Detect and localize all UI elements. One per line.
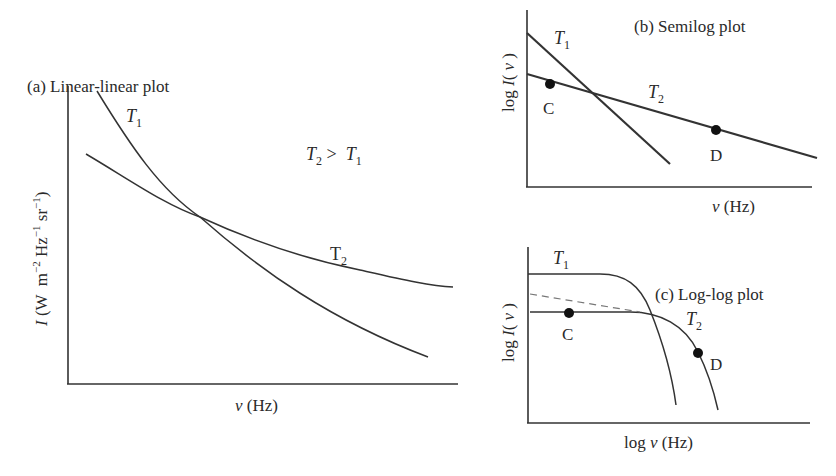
panel-c-y-label: log I( ν ) [499, 303, 518, 362]
panel-c-point-c [564, 308, 574, 318]
panel-a-t1-label: T1 [126, 106, 142, 130]
panel-a-curve-t2 [86, 154, 453, 287]
panel-c-dashed-line [530, 294, 640, 312]
panel-a-x-label: ν (Hz) [235, 396, 278, 415]
panel-b-title: (b) Semilog plot [634, 17, 746, 36]
panel-c-curve-t1 [528, 274, 676, 405]
panel-c-point-d-label: D [710, 355, 722, 374]
panel-b-semilog: (b) Semilog plot C D T1 T2 log I( ν ) ν … [499, 10, 817, 216]
panel-b-point-d [711, 125, 721, 135]
panel-c-log-log: (c) Log-log plot C D T1 T2 log I( ν ) lo… [499, 247, 810, 452]
panel-c-t2-label: T2 [686, 309, 702, 333]
panel-b-t1-label: T1 [554, 28, 570, 52]
panel-b-y-label: log I( ν ) [499, 53, 518, 112]
panel-a-curve-t1 [97, 91, 428, 357]
panel-b-point-c-label: C [543, 99, 554, 118]
panel-a-linear-linear: (a) Linear-linear plot T1 T2 T2 > T1 I (… [27, 77, 458, 415]
panel-c-point-d [693, 348, 703, 358]
panel-b-point-c [545, 79, 555, 89]
panel-a-y-label: I (W m−2 Hz−1 sr−1) [30, 192, 51, 327]
panel-c-title: (c) Log-log plot [655, 285, 764, 304]
panel-b-x-label: ν (Hz) [712, 197, 755, 216]
panel-b-t2-label: T2 [648, 82, 664, 106]
panel-b-line-t2 [527, 74, 817, 158]
figure-canvas: (a) Linear-linear plot T1 T2 T2 > T1 I (… [0, 0, 836, 476]
panel-a-annotation: T2 > T1 [306, 144, 362, 168]
panel-b-point-d-label: D [710, 146, 722, 165]
panel-c-t1-label: T1 [553, 248, 569, 272]
panel-c-x-label: log ν (Hz) [624, 433, 693, 452]
panel-c-point-c-label: C [562, 325, 573, 344]
